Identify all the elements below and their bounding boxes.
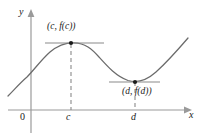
function-graph-figure [0,0,203,139]
local-minimum-label: (d, f(d)) [122,87,152,97]
y-axis-label: y [19,7,23,17]
x-axis-label: x [189,110,193,120]
point-local-maximum [69,41,73,45]
local-maximum-label: (c, f(c)) [47,22,75,32]
x-tick-label-d: d [131,112,136,122]
function-curve [8,38,188,96]
x-tick-label-c: c [66,112,70,122]
point-local-minimum [133,80,137,84]
origin-label: 0 [20,112,25,122]
y-axis-arrowhead [28,9,35,17]
